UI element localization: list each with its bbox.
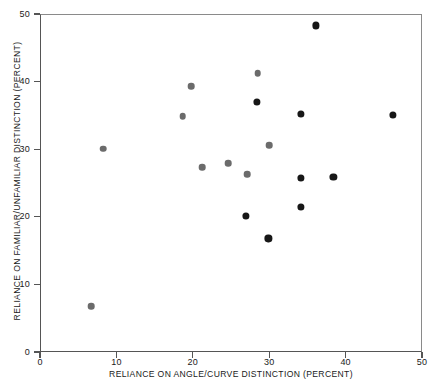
- data-point-grey-6: [244, 171, 251, 178]
- y-tick-50: [34, 13, 40, 14]
- data-point-grey-7: [254, 70, 261, 77]
- x-tick-label-20: 20: [178, 357, 208, 367]
- data-point-dark-3: [298, 110, 305, 117]
- x-tick-label-30: 30: [254, 357, 284, 367]
- data-point-grey-3: [188, 83, 195, 90]
- plot-area: [40, 14, 422, 352]
- data-point-grey-1: [100, 145, 107, 152]
- y-tick-40: [34, 81, 40, 82]
- data-point-grey-4: [199, 164, 206, 171]
- data-point-dark-1: [253, 98, 260, 105]
- x-tick-label-0: 0: [25, 357, 55, 367]
- x-tick-label-40: 40: [331, 357, 361, 367]
- x-tick-label-10: 10: [101, 357, 131, 367]
- data-point-grey-2: [180, 113, 187, 120]
- data-point-dark-7: [330, 173, 337, 180]
- data-point-dark-0: [243, 213, 250, 220]
- scatter-chart-figure: 01020304050 01020304050 RELIANCE ON ANGL…: [0, 0, 432, 387]
- data-point-grey-0: [88, 303, 95, 310]
- y-tick-10: [34, 284, 40, 285]
- data-point-dark-4: [298, 174, 305, 181]
- y-tick-0: [34, 351, 40, 352]
- data-point-grey-8: [266, 142, 273, 149]
- data-point-dark-5: [298, 203, 305, 210]
- y-tick-30: [34, 149, 40, 150]
- data-point-dark-2: [265, 235, 272, 242]
- x-axis-label: RELIANCE ON ANGLE/CURVE DISTINCTION (PER…: [40, 369, 422, 379]
- data-point-dark-6: [312, 22, 319, 29]
- y-axis-label: RELIANCE ON FAMILIAR/UNFAMILIAR DISTINCT…: [12, 1, 22, 361]
- data-point-grey-5: [225, 160, 232, 167]
- data-point-dark-8: [389, 111, 396, 118]
- x-tick-label-50: 50: [407, 357, 432, 367]
- y-tick-20: [34, 216, 40, 217]
